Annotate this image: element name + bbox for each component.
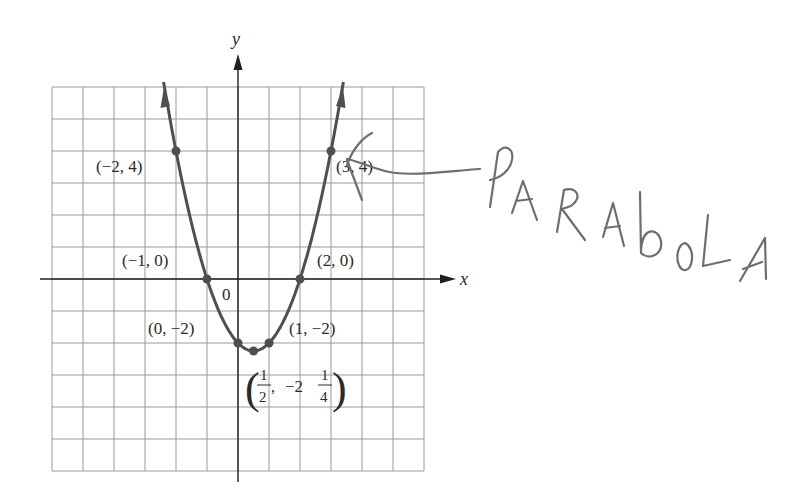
data-point	[172, 147, 181, 156]
handwritten-letter-o	[677, 243, 692, 270]
data-point	[296, 275, 305, 284]
vertex-y-denominator: 4	[320, 389, 328, 405]
vertex-y-whole: −2	[285, 377, 303, 396]
vertex-open-paren: (	[245, 364, 260, 413]
x-axis: x	[40, 269, 468, 289]
point-label-2-0: (2, 0)	[317, 251, 354, 270]
handwritten-letter-r	[557, 189, 585, 240]
vertex-separator: ,	[271, 378, 275, 395]
data-point	[327, 147, 336, 156]
parabola-figure: x y 0 (−2, 4) (3, 4) (−1, 0) (2, 0) (0, …	[0, 0, 810, 504]
data-point	[265, 339, 274, 348]
x-axis-label: x	[459, 269, 468, 289]
vertex-label: ( 1 2 , −2 1 4 )	[245, 364, 347, 413]
handwritten-letter-a1	[512, 181, 537, 220]
handwritten-text: PARABOLA	[490, 198, 496, 200]
point-label-neg2-4: (−2, 4)	[96, 157, 142, 176]
vertex-x-denominator: 2	[259, 389, 267, 405]
origin-label: 0	[222, 285, 231, 304]
vertex-close-paren: )	[332, 364, 347, 413]
point-label-1-neg2: (1, −2)	[289, 319, 335, 338]
vertex-x-numerator: 1	[260, 367, 268, 383]
y-axis-label: y	[230, 29, 240, 49]
data-point	[203, 275, 212, 284]
point-label-0-neg2: (0, −2)	[148, 319, 194, 338]
point-label-neg1-0: (−1, 0)	[122, 251, 168, 270]
handwritten-letter-a3	[740, 238, 766, 281]
handwritten-letter-a2	[603, 203, 624, 246]
handwritten-letter-l	[703, 215, 730, 266]
y-axis-arrow-icon	[234, 54, 243, 70]
data-point	[234, 339, 243, 348]
handwritten-letter-b	[640, 192, 661, 256]
x-axis-arrow-icon	[440, 275, 456, 284]
data-point	[249, 347, 258, 356]
handwritten-annotation: PARABOLA	[347, 133, 766, 281]
vertex-y-numerator: 1	[321, 367, 329, 383]
y-axis: y	[230, 29, 243, 482]
